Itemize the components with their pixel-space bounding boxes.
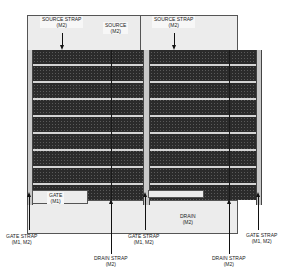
drain-strap-right-arrow-icon: [227, 199, 231, 204]
source-strap-left-arrow-icon: [60, 45, 64, 50]
gate-strap-center-arrow-icon: [143, 192, 147, 197]
gate-strap-right-label: GATE STRAP (M1, M2): [246, 232, 277, 244]
drain-strap-line-left: [111, 50, 112, 200]
gate-strap-left-arrow-icon: [27, 192, 31, 197]
drain-strap-left-line: [111, 204, 112, 254]
drain-strap-right-line: [229, 204, 230, 254]
source-strap-right-arrow-icon: [172, 45, 176, 50]
gate-strap-center-label: GATE STRAP (M1, M2): [128, 233, 159, 245]
gate-strap-right-arrow-icon: [256, 192, 260, 197]
gate-strap-left: [27, 50, 33, 205]
source-label: SOURCE (M2): [103, 22, 128, 34]
drain-strap-line-right: [229, 50, 230, 200]
gate-strap-center-line: [145, 196, 146, 230]
source-strap-left-label: SOURCE STRAP (M2): [40, 16, 83, 28]
gate-label: GATE (M1): [47, 192, 64, 204]
gate-strap-right: [256, 50, 262, 205]
gate-bar-right: [148, 190, 204, 198]
gate-strap-left-label: GATE STRAP (M1, M2): [6, 233, 37, 245]
drain-strap-left-arrow-icon: [109, 199, 113, 204]
drain-strap-right-label: DRAIN STRAP (M2): [212, 255, 246, 267]
drain-region: [27, 200, 238, 234]
drain-strap-left-label: DRAIN STRAP (M2): [94, 255, 128, 267]
drain-label: DRAIN (M2): [180, 213, 196, 225]
source-strap-right-label: SOURCE STRAP (M2): [152, 16, 195, 28]
gate-strap-left-line: [29, 196, 30, 230]
gate-strap-center: [143, 50, 150, 205]
gate-strap-right-line: [258, 196, 259, 230]
